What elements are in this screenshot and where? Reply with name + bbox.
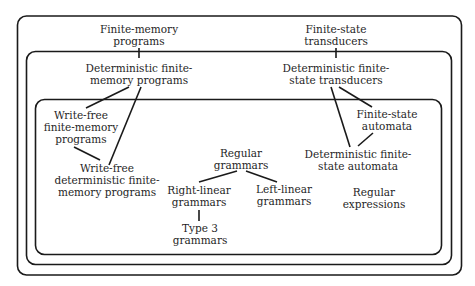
node-finite-state-automata: Finite-state automata (356, 108, 417, 132)
node-label-line: grammars (214, 159, 269, 171)
node-left-linear-grammars: Left-linear grammars (256, 183, 312, 207)
edge-dfst-to-dfsa (331, 87, 350, 147)
node-label-line: Deterministic finite- (283, 62, 390, 74)
node-regular-grammars: Regular grammars (214, 147, 269, 171)
node-label-line: Finite-state (304, 23, 368, 35)
node-label-line: Regular (214, 147, 269, 159)
node-right-linear-grammars: Right-linear grammars (167, 184, 231, 208)
edge-rg-to-rlg (199, 171, 237, 182)
node-label-line: transducers (304, 35, 368, 47)
node-label-line: Regular (343, 186, 406, 198)
node-label-line: Type 3 (173, 222, 228, 234)
node-type3-grammars: Type 3 grammars (173, 222, 228, 246)
node-label-line: Deterministic finite- (305, 148, 412, 160)
hierarchy-diagram: Finite-memory programs Finite-state tran… (0, 0, 475, 286)
node-finite-state-transducers: Finite-state transducers (304, 23, 368, 47)
node-det-finite-memory-programs: Deterministic finite- memory programs (86, 62, 193, 86)
node-write-free-finite-memory-programs: Write-free finite-memory programs (44, 109, 119, 145)
node-label-line: finite-memory (44, 121, 119, 133)
node-label-line: automata (356, 120, 417, 132)
edge-wffmp-to-wfdfmp (74, 147, 100, 160)
node-label-line: Deterministic finite- (86, 62, 193, 74)
node-regular-expressions: Regular expressions (343, 186, 406, 210)
node-label-line: Right-linear (167, 184, 231, 196)
node-label-line: state automata (305, 160, 412, 172)
node-finite-memory-programs: Finite-memory programs (100, 23, 178, 47)
edge-rg-to-llg (246, 171, 277, 182)
node-label-line: deterministic finite- (54, 174, 159, 186)
edge-dfmp-to-wffmp (86, 87, 129, 108)
node-det-finite-state-automata: Deterministic finite- state automata (305, 148, 412, 172)
node-label-line: Write-free (54, 162, 159, 174)
node-label-line: memory programs (54, 186, 159, 198)
node-label-line: memory programs (86, 74, 193, 86)
node-label-line: programs (44, 133, 119, 145)
node-label-line: grammars (167, 196, 231, 208)
outer-region-box (18, 16, 462, 275)
node-label-line: state transducers (283, 74, 390, 86)
node-label-line: grammars (256, 195, 312, 207)
edge-fsa-to-dfsa (358, 133, 373, 146)
node-label-line: grammars (173, 234, 228, 246)
node-label-line: Finite-memory (100, 23, 178, 35)
node-label-line: Left-linear (256, 183, 312, 195)
edge-dfst-to-fsa (339, 87, 372, 107)
node-label-line: expressions (343, 198, 406, 210)
node-label-line: Finite-state (356, 108, 417, 120)
node-det-finite-state-transducers: Deterministic finite- state transducers (283, 62, 390, 86)
node-label-line: Write-free (44, 109, 119, 121)
node-write-free-det-finite-memory-programs: Write-free deterministic finite- memory … (54, 162, 159, 198)
node-label-line: programs (100, 35, 178, 47)
